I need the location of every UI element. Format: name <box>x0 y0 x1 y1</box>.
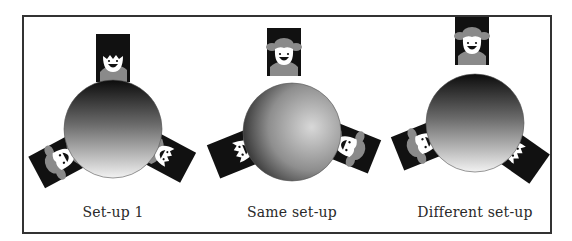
round-table <box>426 74 524 172</box>
panel-label-different-setup: Different set-up <box>417 204 532 220</box>
panel-label-setup-1: Set-up 1 <box>82 204 143 220</box>
round-table <box>64 80 162 178</box>
panel-label-same-setup: Same set-up <box>247 204 337 220</box>
panel-different-setup <box>390 17 549 184</box>
panel-same-setup <box>207 28 382 181</box>
seat-top-boy <box>96 34 130 82</box>
seat-top-girl <box>266 28 302 76</box>
panel-setup-1 <box>28 34 196 189</box>
round-table <box>243 83 341 181</box>
seat-top-girl <box>454 17 490 65</box>
